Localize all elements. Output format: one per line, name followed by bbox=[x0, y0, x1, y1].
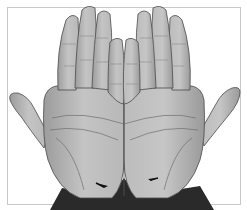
hands-illustration bbox=[0, 0, 247, 210]
palms-photograph bbox=[0, 0, 247, 210]
left-hand bbox=[10, 6, 125, 198]
right-hand bbox=[123, 6, 240, 198]
